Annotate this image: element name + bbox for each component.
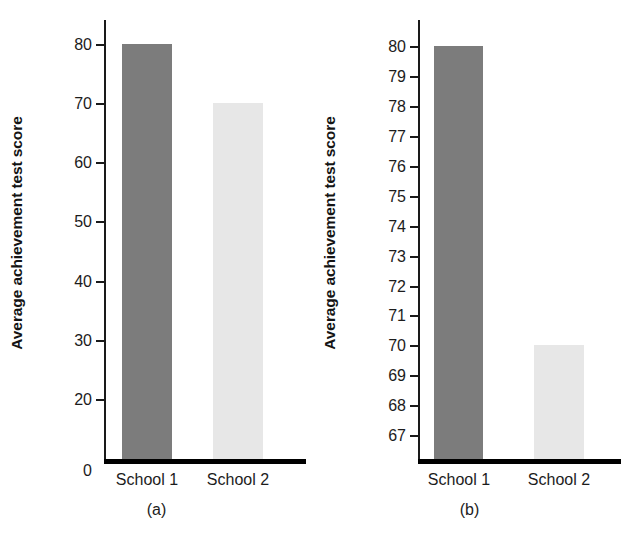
bar-b-school-2 [534, 345, 584, 459]
bar-a-school-1 [122, 44, 172, 459]
bar-b-school-1 [434, 46, 483, 459]
panel-a-caption: (a) [0, 501, 313, 519]
y-tick-label-b-79: 79 [368, 68, 406, 86]
y-tick-a-70 [96, 103, 105, 105]
y-tick-a-80 [96, 44, 105, 46]
y-tick-a-60 [96, 162, 105, 164]
y-tick-b-68 [410, 405, 419, 407]
y-tick-b-79 [410, 76, 419, 78]
y-axis-line-a [104, 20, 106, 463]
y-tick-label-b-73: 73 [368, 248, 406, 266]
y-tick-label-a-30: 30 [54, 332, 92, 350]
x-axis-line-b [418, 459, 621, 464]
y-tick-label-b-67: 67 [368, 427, 406, 445]
y-tick-a-30 [96, 340, 105, 342]
y-tick-label-a-20: 20 [54, 391, 92, 409]
x-tick-label-a-school-2: School 2 [207, 471, 269, 489]
y-tick-label-b-68: 68 [368, 397, 406, 415]
y-tick-label-b-74: 74 [368, 218, 406, 236]
panel-b: Average achievement test score 80 79 78 … [313, 0, 626, 534]
y-tick-b-78 [410, 106, 419, 108]
plot-area-a: 80 70 60 50 40 30 20 0 School 1 School 2… [0, 0, 313, 534]
y-tick-b-71 [410, 315, 419, 317]
y-tick-label-a-80: 80 [54, 36, 92, 54]
y-tick-label-b-69: 69 [368, 367, 406, 385]
y-tick-b-73 [410, 256, 419, 258]
y-tick-label-b-70: 70 [368, 337, 406, 355]
y-tick-b-75 [410, 196, 419, 198]
x-tick-label-b-school-1: School 1 [428, 471, 490, 489]
y-tick-label-a-40: 40 [54, 273, 92, 291]
y-tick-b-74 [410, 226, 419, 228]
panel-b-caption: (b) [313, 501, 626, 519]
y-tick-a-20 [96, 399, 105, 401]
y-tick-label-a-0: 0 [66, 462, 92, 480]
plot-area-b: 80 79 78 77 76 75 74 73 72 71 70 69 [313, 0, 626, 534]
y-tick-label-b-75: 75 [368, 188, 406, 206]
y-tick-label-b-76: 76 [368, 158, 406, 176]
x-axis-line-a [104, 459, 306, 464]
y-tick-label-b-78: 78 [368, 98, 406, 116]
x-tick-label-a-school-1: School 1 [116, 471, 178, 489]
y-tick-b-70 [410, 345, 419, 347]
x-tick-label-b-school-2: School 2 [528, 471, 590, 489]
y-tick-a-40 [96, 281, 105, 283]
two-panel-bar-figure: Average achievement test score 80 70 60 … [0, 0, 626, 534]
y-tick-label-b-72: 72 [368, 278, 406, 296]
y-tick-label-b-77: 77 [368, 128, 406, 146]
y-tick-b-67 [410, 435, 419, 437]
y-tick-b-77 [410, 136, 419, 138]
y-tick-label-a-60: 60 [54, 154, 92, 172]
y-tick-b-69 [410, 375, 419, 377]
y-tick-b-72 [410, 286, 419, 288]
bar-a-school-2 [213, 103, 263, 459]
panel-a: Average achievement test score 80 70 60 … [0, 0, 313, 534]
y-tick-label-a-70: 70 [54, 95, 92, 113]
y-tick-a-50 [96, 221, 105, 223]
y-tick-label-b-71: 71 [368, 307, 406, 325]
y-tick-label-a-50: 50 [54, 213, 92, 231]
y-axis-line-b [418, 20, 420, 463]
y-tick-b-80 [410, 46, 419, 48]
y-tick-b-76 [410, 166, 419, 168]
y-tick-label-b-80: 80 [368, 38, 406, 56]
